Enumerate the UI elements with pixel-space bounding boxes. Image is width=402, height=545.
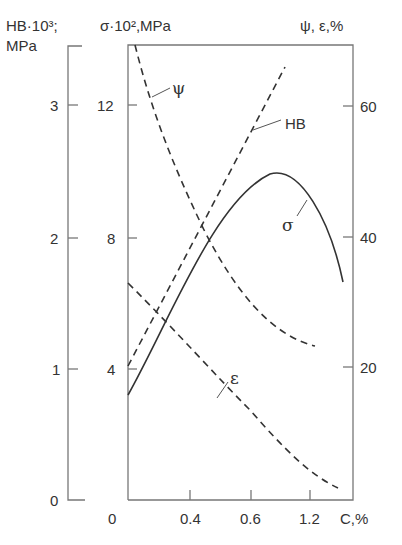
sigma-tick-8: 8 [107,230,115,247]
label-hb: HB [285,115,306,132]
right-tick-40: 40 [360,229,377,246]
sigma-axis-title: σ·10²,MPa [100,17,172,34]
hb-axis: 3 2 1 0 [50,46,85,509]
x-tick-1-2: 1.2 [299,510,320,527]
hb-axis-title: HB·10³; [6,17,58,34]
x-axis-title: C,% [340,510,368,527]
x-tick-0-4: 0.4 [180,510,201,527]
sigma-tick-12: 12 [97,97,114,114]
plot-frame [128,45,353,500]
chart: HB·10³; MPa σ·10²,MPa ψ, ε,% 3 2 1 0 12 … [0,0,402,545]
hb-tick-0: 0 [50,492,58,509]
x-tick-0: 0 [108,510,116,527]
hb-axis-unit: MPa [6,37,38,54]
sigma-tick-4: 4 [107,361,115,378]
right-tick-20: 20 [360,359,377,376]
curve-hb [128,67,285,366]
hb-tick-3: 3 [50,97,58,114]
right-axis-title: ψ, ε,% [300,17,343,34]
curve-sigma [128,173,343,395]
hb-tick-1: 1 [52,361,60,378]
label-epsilon: ε [230,368,239,388]
label-psi: ψ [172,78,185,98]
right-tick-60: 60 [360,98,377,115]
x-tick-0-6: 0.6 [240,510,261,527]
label-sigma: σ [282,215,294,235]
hb-tick-2: 2 [50,230,58,247]
